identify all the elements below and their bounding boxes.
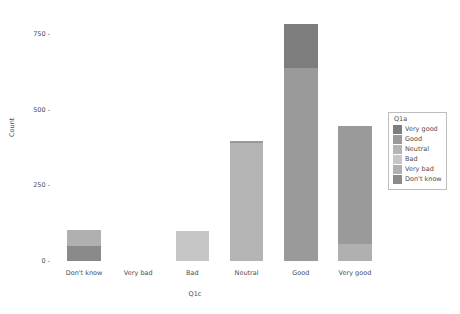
bar-segment	[284, 24, 318, 68]
legend-item: Neutral	[393, 145, 442, 154]
legend-color-swatch	[393, 125, 402, 134]
legend-item-label: Bad	[405, 156, 418, 163]
y-tick-label: 500 -	[20, 107, 50, 114]
bar-bad	[176, 231, 210, 261]
bar-neutral	[230, 141, 264, 261]
bar-segment	[176, 231, 210, 261]
bar-don-t-know	[67, 230, 101, 261]
legend-item-label: Neutral	[405, 146, 429, 153]
chart-legend: Q1a Very goodGoodNeutralBadVery badDon't…	[388, 112, 447, 190]
legend-item: Bad	[393, 155, 442, 164]
legend-color-swatch	[393, 135, 402, 144]
chart-plot: Count Q1c 0 -250 -500 -750 - Don't knowV…	[0, 0, 460, 314]
y-tick-label: 750 -	[20, 31, 50, 38]
bar-segment	[67, 230, 101, 247]
bar-segment	[230, 141, 264, 144]
legend-color-swatch	[393, 165, 402, 174]
y-axis-title: Count	[9, 118, 16, 137]
legend-item: Don't know	[393, 175, 442, 184]
bar-very-good	[338, 126, 372, 261]
bar-segment	[338, 126, 372, 244]
legend-color-swatch	[393, 145, 402, 154]
legend-item: Good	[393, 135, 442, 144]
legend-item: Very good	[393, 125, 442, 134]
bar-segment	[67, 246, 101, 261]
legend-item-label: Good	[405, 136, 422, 143]
legend-item-label: Very bad	[405, 166, 434, 173]
legend-color-swatch	[393, 175, 402, 184]
legend-item-label: Very good	[405, 126, 438, 133]
legend-item: Very bad	[393, 165, 442, 174]
legend-items: Very goodGoodNeutralBadVery badDon't kno…	[393, 125, 442, 184]
legend-color-swatch	[393, 155, 402, 164]
bar-segment	[338, 244, 372, 261]
bar-segment	[230, 143, 264, 261]
bar-good	[284, 24, 318, 261]
x-axis-title: Q1c	[0, 291, 390, 298]
legend-item-label: Don't know	[405, 176, 442, 183]
y-tick-label: 250 -	[20, 182, 50, 189]
bar-segment	[284, 68, 318, 261]
legend-title: Q1a	[394, 116, 442, 123]
y-tick-label: 0 -	[20, 258, 50, 265]
chart-panel	[57, 10, 382, 261]
x-tick-label: Very good	[315, 270, 395, 277]
